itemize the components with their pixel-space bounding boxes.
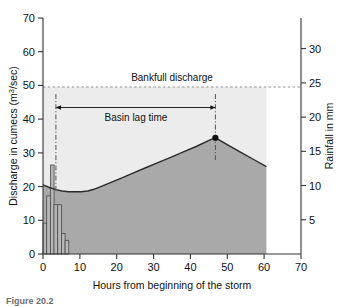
x-axis-ticklabels: 0 10 20 30 40 50 60 70 xyxy=(40,261,307,273)
y-axis-left-ticks xyxy=(38,18,43,254)
basin-lag-time-label: Basin lag time xyxy=(105,112,168,123)
y-ticklabel: 40 xyxy=(23,113,35,125)
y-axis-right-ticklabels: 5 10 15 20 25 30 xyxy=(309,43,321,226)
x-ticklabel: 20 xyxy=(111,261,123,273)
x-ticklabel: 60 xyxy=(258,261,270,273)
y-right-ticklabel: 30 xyxy=(309,43,321,55)
x-axis-title: Hours from beginning of the storm xyxy=(93,279,252,291)
hydrograph-chart: 0 10 20 30 40 50 60 70 5 10 15 20 25 30 xyxy=(0,0,341,307)
y-right-ticklabel: 10 xyxy=(309,180,321,192)
x-axis-ticks xyxy=(43,254,301,259)
rainfall-bar xyxy=(65,240,69,254)
y-right-ticklabel: 20 xyxy=(309,111,321,123)
y-right-ticklabel: 15 xyxy=(309,145,321,157)
rainfall-bar xyxy=(54,205,58,254)
y-axis-left-title: Discharge in cumecs (m3/sec) xyxy=(7,66,19,206)
rainfall-bar xyxy=(58,205,62,254)
x-ticklabel: 30 xyxy=(147,261,159,273)
rainfall-bar xyxy=(50,165,54,254)
x-ticklabel: 70 xyxy=(295,261,307,273)
bankfull-discharge-label: Bankfull discharge xyxy=(131,72,213,83)
hydrograph-figure: 0 10 20 30 40 50 60 70 5 10 15 20 25 30 xyxy=(0,0,341,307)
rainfall-bar xyxy=(43,223,47,254)
rainfall-bar xyxy=(47,196,51,254)
y-ticklabel: 20 xyxy=(23,181,35,193)
y-ticklabel: 70 xyxy=(23,12,35,24)
y-ticklabel: 30 xyxy=(23,147,35,159)
y-axis-left-ticklabels: 0 10 20 30 40 50 60 70 xyxy=(23,12,35,260)
y-ticklabel: 60 xyxy=(23,46,35,58)
y-ticklabel: 50 xyxy=(23,79,35,91)
y-ticklabel: 0 xyxy=(29,248,35,260)
x-ticklabel: 40 xyxy=(184,261,196,273)
x-ticklabel: 50 xyxy=(221,261,233,273)
y-right-ticklabel: 25 xyxy=(309,77,321,89)
x-ticklabel: 0 xyxy=(40,261,46,273)
x-ticklabel: 10 xyxy=(74,261,86,273)
y-axis-right-title: Rainfall in mm xyxy=(323,102,335,169)
rainfall-bar xyxy=(61,234,65,255)
y-axis-right-ticks xyxy=(301,49,306,220)
peak-discharge-dot xyxy=(212,135,218,141)
y-ticklabel: 10 xyxy=(23,214,35,226)
y-right-ticklabel: 5 xyxy=(309,214,315,226)
figure-caption: Figure 20.2 xyxy=(6,296,54,307)
